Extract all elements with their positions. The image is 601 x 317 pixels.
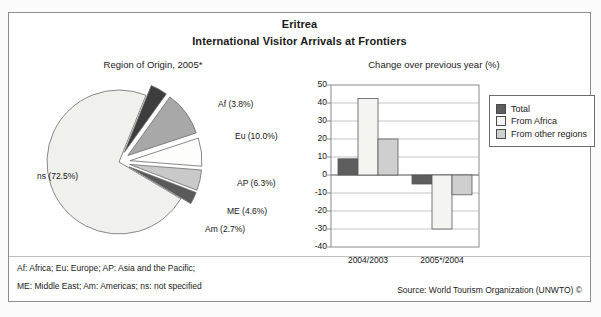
pie-label-ap: AP (6.3%) (237, 178, 276, 188)
bar-y-tick-label: 10 (305, 151, 327, 161)
footnote-line-2: ME: Middle East; Am: Americas; ns: not s… (17, 281, 202, 291)
legend-swatch-from-other-regions (496, 129, 506, 139)
bar-y-tick-label: 30 (305, 115, 327, 125)
bar-y-tick-label: 50 (305, 79, 327, 89)
pie-chart-subtitle: Region of Origin, 2005* (23, 59, 283, 70)
bar-y-tick-label: 40 (305, 97, 327, 107)
bar-y-tick-label: -10 (305, 187, 327, 197)
pie-label-ns: ns (72.5%) (37, 171, 78, 181)
bar-y-tick-label: 20 (305, 133, 327, 143)
bar-total-20052004 (412, 175, 432, 184)
bar-from-other-regions-20042003 (378, 139, 398, 175)
pie-label-am: Am (2.7%) (205, 224, 245, 234)
legend-item-total: Total (496, 104, 587, 114)
bar-chart-legend: Total From Africa From other regions (489, 95, 595, 147)
legend-label-total: Total (511, 104, 530, 114)
pie-chart: Af (3.8%) Eu (10.0%) AP (6.3%) ME (4.6%)… (19, 75, 307, 250)
pie-label-af: Af (3.8%) (218, 99, 253, 109)
figure-frame: Eritrea International Visitor Arrivals a… (8, 12, 591, 302)
bar-y-tick-label: -40 (305, 241, 327, 251)
pie-label-me: ME (4.6%) (227, 206, 267, 216)
pie-label-eu: Eu (10.0%) (235, 131, 278, 141)
source-note: Source: World Tourism Organization (UNWT… (397, 285, 582, 295)
bar-y-tick-label: -30 (305, 223, 327, 233)
footer-divider (9, 256, 590, 257)
legend-label-from-africa: From Africa (511, 116, 557, 126)
bar-from-africa-20042003 (358, 99, 378, 176)
bar-from-africa-20052004 (432, 175, 452, 229)
bar-y-tick-label: -20 (305, 205, 327, 215)
bar-chart-subtitle: Change over previous year (%) (309, 59, 559, 70)
bar-total-20042003 (338, 159, 358, 175)
page-subtitle: International Visitor Arrivals at Fronti… (9, 35, 590, 47)
pie-chart-svg (19, 75, 307, 250)
legend-item-from-africa: From Africa (496, 116, 587, 126)
legend-swatch-total (496, 104, 506, 114)
legend-item-from-other-regions: From other regions (496, 129, 587, 139)
bar-y-tick-label: 0 (305, 169, 327, 179)
page-title: Eritrea (9, 18, 590, 30)
footnote-line-1: Af: Africa; Eu: Europe; AP: Asia and the… (17, 263, 195, 273)
bar-chart: Total From Africa From other regions 504… (305, 75, 587, 271)
legend-swatch-from-africa (496, 116, 506, 126)
bar-from-other-regions-20052004 (452, 175, 472, 195)
legend-label-from-other-regions: From other regions (511, 129, 587, 139)
